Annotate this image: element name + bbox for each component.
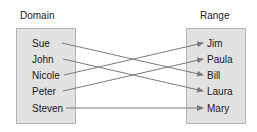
mapping-arrows bbox=[0, 0, 257, 132]
